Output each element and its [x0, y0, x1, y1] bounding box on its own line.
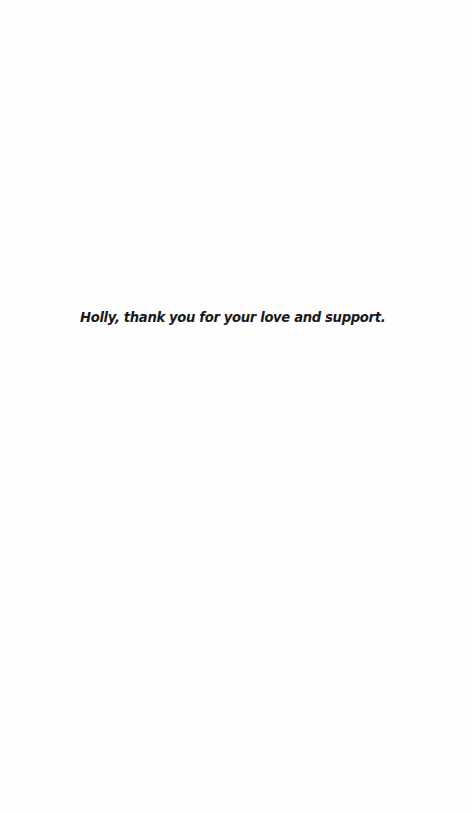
dedication-text: Holly, thank you for your love and suppo…	[80, 307, 380, 329]
document-page: Holly, thank you for your love and suppo…	[0, 0, 472, 813]
